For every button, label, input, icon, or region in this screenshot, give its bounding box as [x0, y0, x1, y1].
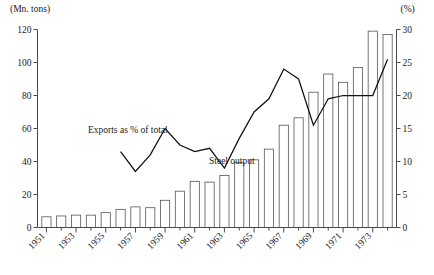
bar-1953 [71, 215, 80, 227]
x-tick-label-1967: 1967 [264, 231, 285, 252]
y-tick-label-left-120: 120 [17, 25, 32, 35]
x-tick-label-1959: 1959 [145, 231, 166, 252]
bar-1955 [101, 213, 110, 228]
y-tick-label-left-60: 60 [22, 124, 32, 134]
x-tick-label-1951: 1951 [26, 231, 47, 252]
x-tick-label-1957: 1957 [115, 231, 136, 252]
bar-1952 [57, 216, 66, 228]
bar-1951 [42, 217, 51, 228]
bar-1958 [146, 208, 155, 228]
bar-1968 [294, 118, 303, 228]
y-tick-label-right-25: 25 [403, 58, 413, 68]
bar-1962 [205, 182, 214, 227]
bar-1969 [309, 92, 318, 227]
x-tick-label-1961: 1961 [175, 231, 196, 252]
y-tick-label-right-5: 5 [403, 190, 408, 200]
y-tick-label-left-20: 20 [22, 190, 32, 200]
y-tick-label-left-0: 0 [27, 223, 32, 233]
bar-1972 [353, 67, 362, 227]
y-tick-label-left-100: 100 [17, 58, 32, 68]
y-tick-label-left-40: 40 [22, 157, 32, 167]
y-tick-label-right-20: 20 [403, 91, 413, 101]
y-tick-label-right-10: 10 [403, 157, 413, 167]
steel-output-exports-chart: 020406080100120(Mn. tons)051015202530(%)… [0, 0, 434, 275]
y-tick-label-right-30: 30 [403, 25, 413, 35]
bar-1954 [86, 215, 95, 227]
bar-1961 [190, 181, 199, 227]
bar-1973 [368, 31, 377, 227]
x-tick-label-1963: 1963 [204, 231, 225, 252]
bar-1964 [235, 162, 244, 227]
bar-1970 [324, 74, 333, 227]
bar-1956 [116, 209, 125, 227]
y-tick-label-right-0: 0 [403, 223, 408, 233]
x-tick-label-1973: 1973 [353, 231, 374, 252]
chart-root: 020406080100120(Mn. tons)051015202530(%)… [0, 0, 434, 275]
bar-1967 [279, 125, 288, 227]
y-tick-label-left-80: 80 [22, 91, 32, 101]
bar-1957 [131, 207, 140, 228]
bar-1965 [249, 160, 258, 228]
x-tick-label-1969: 1969 [293, 231, 314, 252]
steel-output-label: Steel output [209, 156, 255, 166]
y-axis-unit-label-left: (Mn. tons) [10, 4, 50, 15]
bar-1959 [160, 200, 169, 227]
bar-1966 [264, 149, 273, 227]
y-tick-label-right-15: 15 [403, 124, 413, 134]
y-axis-unit-label-right: (%) [401, 4, 415, 15]
x-tick-label-1953: 1953 [56, 231, 77, 252]
x-tick-label-1971: 1971 [323, 231, 344, 252]
bar-1974 [383, 34, 392, 227]
bar-1963 [220, 176, 229, 228]
x-tick-label-1965: 1965 [234, 231, 255, 252]
x-tick-label-1955: 1955 [86, 231, 107, 252]
exports-line-label: Exports as % of total [88, 125, 168, 135]
bar-1971 [339, 82, 348, 227]
bar-1960 [175, 191, 184, 227]
